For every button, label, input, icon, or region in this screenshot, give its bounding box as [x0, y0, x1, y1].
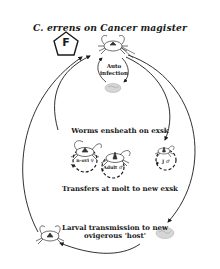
badge-letter: F — [54, 36, 78, 49]
ensheath-label: Worms ensheath on exsk — [50, 127, 190, 134]
stage-label-adult-male: Adult ♂ — [102, 166, 124, 171]
larval-transmission-label: Larval transmission to new ovigerous 'ho… — [45, 224, 185, 240]
outer-left-arrow — [23, 57, 82, 232]
crab-icon — [98, 35, 135, 58]
inner-left-arrow — [55, 56, 90, 130]
crab-icon — [101, 151, 130, 166]
diagram-title: C. errens on Cancer magister — [0, 23, 220, 32]
outer-right-arrow — [128, 55, 195, 222]
stage-label-non-ovigerous-female: n-ovi ♀ — [73, 159, 97, 164]
bottom-arrow — [60, 243, 140, 253]
egg-mass-icon — [105, 84, 121, 93]
auto-infection-label: Auto infection — [94, 63, 134, 77]
transfer-label: Transfers at molt to new exsk — [50, 185, 190, 192]
stage-label-juvenile-male: J ♂ — [158, 160, 174, 165]
